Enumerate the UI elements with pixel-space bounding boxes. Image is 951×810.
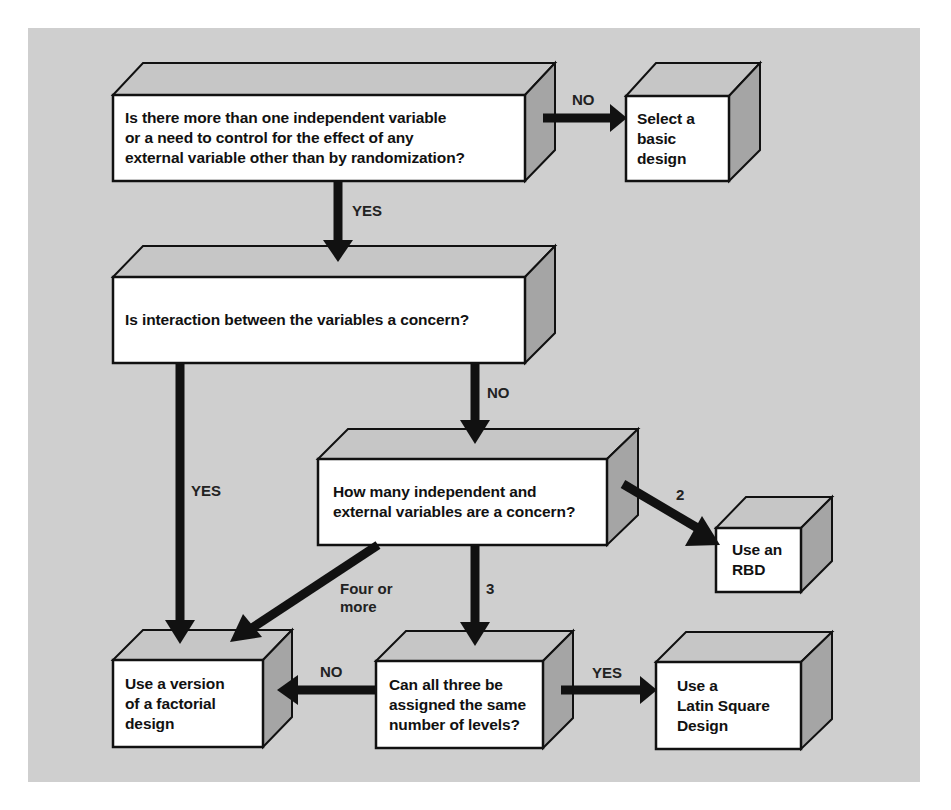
node-q2: Is interaction between the variables a c… — [125, 277, 523, 363]
node-q4: Can all three be assigned the same numbe… — [389, 661, 542, 748]
edge-label-q4-latin: YES — [592, 664, 622, 682]
edge-label-q4-factorial: NO — [320, 663, 343, 681]
node-latin-square: Use a Latin Square Design — [677, 662, 800, 749]
node-q2-text: Is interaction between the variables a c… — [125, 310, 469, 330]
node-q3-text: How many independent and external variab… — [333, 482, 575, 522]
node-factorial-text: Use a version of a factorial design — [125, 674, 225, 734]
edge-label-q3-q4: 3 — [486, 580, 494, 598]
arrow-q2-to-factorial — [165, 363, 195, 644]
node-basic-design-text: Select a basic design — [637, 109, 695, 169]
node-basic-design: Select a basic design — [637, 96, 727, 181]
node-latin-square-text: Use a Latin Square Design — [677, 676, 770, 736]
edge-label-q3-rbd: 2 — [676, 486, 684, 504]
node-rbd-text: Use an RBD — [732, 540, 782, 580]
node-rbd: Use an RBD — [732, 528, 800, 592]
edge-label-q1-basic: NO — [572, 91, 595, 109]
edge-label-q2-q3: NO — [487, 384, 510, 402]
node-factorial: Use a version of a factorial design — [125, 660, 262, 747]
node-q1-text: Is there more than one independent varia… — [125, 108, 465, 168]
node-q3: How many independent and external variab… — [333, 459, 605, 545]
node-q4-text: Can all three be assigned the same numbe… — [389, 675, 526, 735]
edge-label-q1-q2: YES — [352, 202, 382, 220]
node-q1: Is there more than one independent varia… — [125, 95, 523, 181]
edge-label-q3-factorial: Four or more — [340, 580, 393, 616]
edge-label-q2-factorial: YES — [191, 482, 221, 500]
